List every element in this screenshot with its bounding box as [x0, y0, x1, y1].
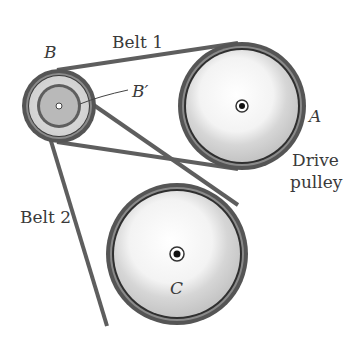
- label-b-prime: B′: [132, 83, 148, 100]
- label-a: A: [309, 108, 321, 125]
- label-b: B: [44, 44, 57, 61]
- pulley-b-prime: [37, 84, 81, 128]
- label-drive: Drive: [292, 152, 339, 169]
- pulley-a: [178, 42, 306, 170]
- label-belt-1: Belt 1: [112, 34, 163, 51]
- belt-pulley-diagram: B Belt 1 B′ A Drive pulley Belt 2 C: [0, 0, 355, 350]
- label-belt-2: Belt 2: [20, 209, 71, 226]
- label-c: C: [170, 280, 183, 297]
- pulley-b: [22, 69, 96, 143]
- pulley-c: [106, 183, 248, 325]
- label-pulley: pulley: [290, 174, 342, 191]
- shaft-b-icon: [56, 103, 62, 109]
